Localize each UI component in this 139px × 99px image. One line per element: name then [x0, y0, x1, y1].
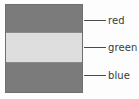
- band-blue: [6, 63, 82, 92]
- label-red: red: [108, 15, 125, 26]
- band-red: [6, 5, 82, 33]
- figure-canvas: red green blue: [0, 0, 139, 99]
- label-green: green: [108, 42, 137, 53]
- label-blue: blue: [108, 70, 130, 81]
- band-green: [6, 33, 82, 63]
- leader-line-red: [84, 20, 106, 21]
- leader-line-blue: [84, 75, 106, 76]
- leader-line-green: [84, 47, 106, 48]
- stacked-band-block: [5, 4, 83, 93]
